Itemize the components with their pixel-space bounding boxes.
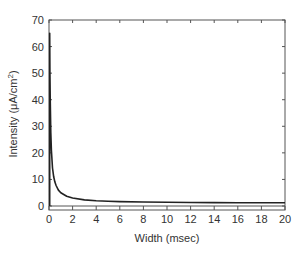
y-tick-label: 0 (38, 200, 44, 212)
curve-line (50, 33, 285, 206)
x-axis-label: Width (msec) (135, 232, 200, 244)
chart: 010203040506070 02468101214161820 Width … (0, 0, 303, 253)
y-axis-ticks: 010203040506070 (32, 14, 285, 212)
x-tick-label: 16 (232, 213, 244, 225)
y-tick-label: 50 (32, 67, 44, 79)
x-tick-label: 6 (117, 213, 123, 225)
x-tick-label: 0 (46, 213, 52, 225)
x-tick-label: 20 (279, 213, 291, 225)
x-tick-label: 8 (140, 213, 146, 225)
y-tick-label: 30 (32, 120, 44, 132)
y-tick-label: 70 (32, 14, 44, 26)
x-tick-label: 12 (184, 213, 196, 225)
y-tick-label: 20 (32, 147, 44, 159)
y-tick-label: 60 (32, 41, 44, 53)
x-tick-label: 2 (70, 213, 76, 225)
data-series (50, 33, 285, 206)
x-tick-label: 14 (208, 213, 220, 225)
x-axis-ticks: 02468101214161820 (46, 20, 291, 225)
plot-border (49, 20, 285, 210)
y-axis-label: Intensity (μA/cm2) (6, 70, 19, 157)
y-tick-label: 40 (32, 94, 44, 106)
x-tick-label: 10 (161, 213, 173, 225)
plot-frame (49, 20, 285, 210)
x-tick-label: 4 (93, 213, 99, 225)
y-tick-label: 10 (32, 173, 44, 185)
x-tick-label: 18 (255, 213, 267, 225)
